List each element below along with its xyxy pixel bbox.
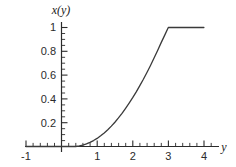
x-tick-label-2: 2	[130, 150, 136, 162]
chart-figure: -1 1 2 3 4 0.2 0.4 0.6 0.8 1 x(y) y	[0, 0, 236, 167]
x-axis-title: y	[220, 140, 227, 154]
y-axis-title: x(y)	[51, 3, 71, 17]
x-tick-label-1: 1	[94, 150, 100, 162]
y-tick-label-0-2: 0.2	[41, 117, 56, 129]
line-chart-plot: -1 1 2 3 4 0.2 0.4 0.6 0.8 1 x(y) y	[0, 0, 236, 167]
y-tick-label-0-6: 0.6	[41, 69, 56, 81]
chart-background	[0, 0, 236, 167]
x-tick-label-3: 3	[165, 150, 171, 162]
y-tick-label-1: 1	[50, 21, 56, 33]
y-tick-label-0-4: 0.4	[41, 93, 56, 105]
x-tick-label-4: 4	[201, 150, 207, 162]
y-tick-label-0-8: 0.8	[41, 45, 56, 57]
x-tick-label--1: -1	[21, 150, 31, 162]
